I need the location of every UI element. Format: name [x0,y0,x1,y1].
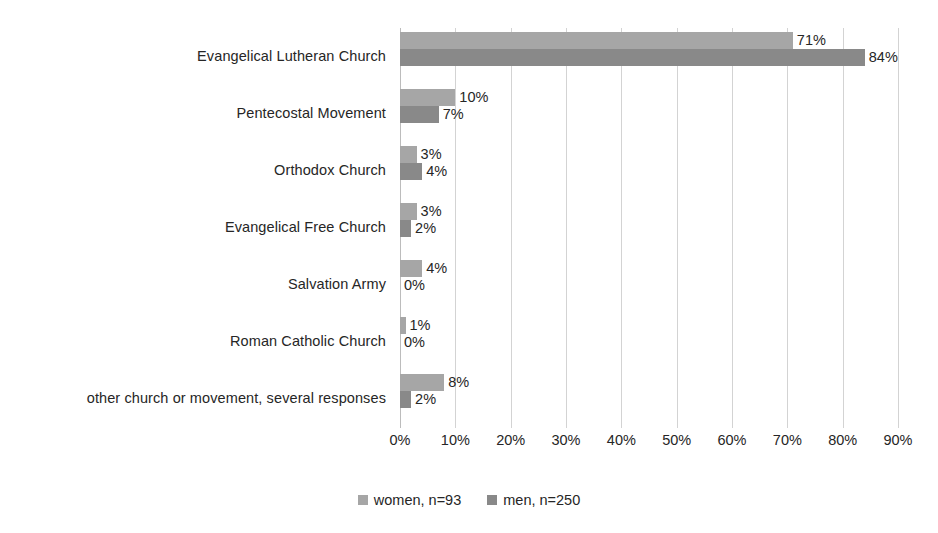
category-label: Evangelical Free Church [225,219,386,236]
category-label: Roman Catholic Church [230,333,386,350]
bar-value-label-men: 4% [426,164,447,179]
bar-men [400,106,439,123]
bar-women [400,260,422,277]
bar-value-label-men: 84% [869,50,898,65]
plot-area: 71%84%10%7%3%4%3%2%4%0%1%0%8%2% [400,28,898,428]
bar-group: 3%4% [400,142,898,199]
bar-men [400,163,422,180]
gridline-90% [898,28,899,428]
x-tick-label: 20% [496,432,525,448]
legend-swatch-icon [487,495,497,505]
bar-value-label-women: 4% [426,261,447,276]
bar-group: 71%84% [400,28,898,85]
bar-women [400,32,793,49]
bar-women [400,203,417,220]
bar-men [400,220,411,237]
legend-item[interactable]: men, n=250 [487,492,580,508]
category-axis: Evangelical Lutheran ChurchPentecostal M… [14,28,386,428]
bar-value-label-men: 2% [415,221,436,236]
chart-plot-wrapper: Evangelical Lutheran ChurchPentecostal M… [0,0,938,533]
legend-item[interactable]: women, n=93 [358,492,461,508]
category-label-row: Evangelical Free Church [14,199,386,256]
legend-label: women, n=93 [374,492,461,508]
bar-value-label-men: 0% [404,278,425,293]
bar-value-label-women: 8% [448,375,469,390]
category-label-row: other church or movement, several respon… [14,370,386,427]
x-tick-label: 10% [441,432,470,448]
category-label: Pentecostal Movement [237,105,387,122]
category-label: other church or movement, several respon… [87,390,386,407]
bar-value-label-women: 3% [421,147,442,162]
legend-swatch-icon [358,495,368,505]
bar-chart: Evangelical Lutheran ChurchPentecostal M… [0,0,938,533]
x-tick-label: 0% [390,432,411,448]
x-tick-label: 50% [662,432,691,448]
bar-value-label-men: 7% [443,107,464,122]
category-label-row: Pentecostal Movement [14,85,386,142]
category-label: Evangelical Lutheran Church [197,48,386,65]
bar-women [400,89,455,106]
bar-value-label-men: 2% [415,392,436,407]
category-label-row: Evangelical Lutheran Church [14,28,386,85]
bar-women [400,374,444,391]
bar-men [400,391,411,408]
bar-value-label-men: 0% [404,335,425,350]
x-tick-label: 60% [717,432,746,448]
bar-women [400,146,417,163]
bar-group: 4%0% [400,256,898,313]
category-label: Orthodox Church [274,162,386,179]
category-label: Salvation Army [288,276,386,293]
bar-group: 10%7% [400,85,898,142]
x-tick-label: 30% [551,432,580,448]
legend-label: men, n=250 [503,492,580,508]
bar-value-label-women: 1% [410,318,431,333]
chart-legend: women, n=93men, n=250 [0,492,938,508]
bar-men [400,49,865,66]
bar-group: 3%2% [400,199,898,256]
category-label-row: Salvation Army [14,256,386,313]
bar-group: 8%2% [400,370,898,427]
bar-value-label-women: 10% [459,90,488,105]
bar-group: 1%0% [400,313,898,370]
x-tick-label: 90% [883,432,912,448]
x-tick-label: 40% [607,432,636,448]
bar-women [400,317,406,334]
x-tick-label: 70% [773,432,802,448]
x-tick-label: 80% [828,432,857,448]
value-axis: 0%10%20%30%40%50%60%70%80%90% [400,432,898,456]
category-label-row: Roman Catholic Church [14,313,386,370]
bar-value-label-women: 71% [797,33,826,48]
category-label-row: Orthodox Church [14,142,386,199]
bar-value-label-women: 3% [421,204,442,219]
